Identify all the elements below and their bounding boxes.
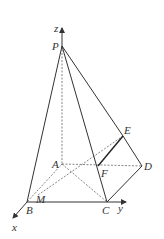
x-axis <box>13 202 27 218</box>
label-y: y <box>117 202 123 214</box>
label-E: E <box>123 124 131 136</box>
label-P: P <box>51 40 59 52</box>
edge-PB <box>27 46 62 202</box>
label-D: D <box>143 160 152 172</box>
edge-AD <box>62 164 142 166</box>
edge-ME <box>38 136 123 195</box>
pyramid-diagram: z P E A D F M B C y x <box>0 0 164 239</box>
label-x: x <box>11 221 17 233</box>
label-F: F <box>100 167 108 179</box>
edge-CD <box>107 166 142 202</box>
label-z: z <box>53 22 59 34</box>
label-M: M <box>35 193 46 205</box>
edge-PE <box>62 46 123 136</box>
label-C: C <box>102 204 110 216</box>
label-B: B <box>26 204 33 216</box>
edge-DE <box>123 136 142 166</box>
label-A: A <box>51 158 59 170</box>
